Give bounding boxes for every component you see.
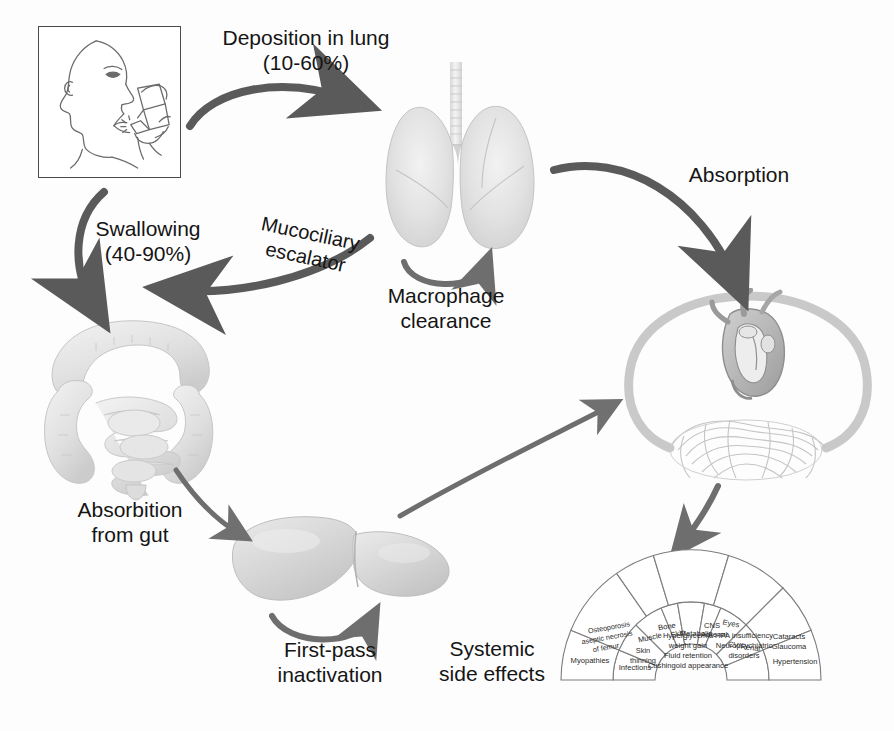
caption-strip bbox=[0, 707, 894, 731]
fan-label-hpa: HPA insufficiency bbox=[715, 631, 773, 640]
label-first-pass: First-pass inactivation bbox=[230, 638, 430, 688]
fan-label-cns: CNS bbox=[704, 621, 720, 630]
fan-label-cataracts: Cataracts bbox=[773, 632, 806, 641]
fan-label-hyperglycemia: Hyperglycemia bbox=[663, 631, 714, 640]
liver-illustration bbox=[228, 505, 460, 623]
label-swallowing: Swallowing (40-90%) bbox=[68, 217, 228, 267]
fan-label-glaucoma: Glaucoma bbox=[772, 642, 807, 651]
fan-label-fluid-retention: Fluid retention bbox=[664, 651, 712, 660]
arrow-deposition bbox=[190, 87, 352, 126]
label-absorbition-gut: Absorbition from gut bbox=[34, 498, 226, 548]
fan-label-neuropsychiatric: Neuropsychiatric bbox=[716, 641, 773, 650]
circulation-illustration bbox=[622, 288, 874, 493]
arrow-to-side-effects bbox=[680, 486, 718, 546]
fan-label-cushingoid: Cushingoid appearance bbox=[648, 661, 728, 670]
label-deposition: Deposition in lung (10-60%) bbox=[178, 26, 434, 76]
fan-label-hypertension: Hypertension bbox=[773, 657, 818, 666]
diagram-canvas: Deposition in lung (10-60%) Swallowing (… bbox=[0, 0, 894, 731]
fan-label-disorders: disorders bbox=[728, 651, 759, 660]
label-macrophage: Macrophage clearance bbox=[356, 284, 536, 334]
inhaler-illustration bbox=[38, 26, 181, 178]
fan-label-weight-gain: weight gain bbox=[668, 641, 707, 650]
fan-label-myopathies: Myopathies bbox=[571, 656, 610, 665]
intestines-illustration bbox=[30, 305, 252, 501]
label-absorption: Absorption bbox=[664, 163, 814, 188]
fan-label-skin-thin-1: Skin bbox=[636, 646, 650, 655]
systemic-side-effects-fan: Infections Muscle Bone Skin Metabolic CN… bbox=[496, 548, 886, 688]
arrow-liver-to-circulation bbox=[400, 406, 610, 516]
